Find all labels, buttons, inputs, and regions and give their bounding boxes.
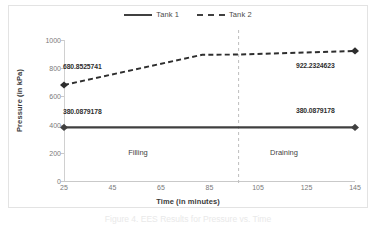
phase-label-filling: Filling (128, 148, 148, 157)
y-tick-label-600: 600 (31, 93, 61, 100)
x-axis-tick-labels: 25 45 65 85 105 125 145 (64, 184, 355, 196)
x-tick-label-85: 85 (206, 184, 214, 191)
figure-caption: Figure 4. EES Results for Pressure vs. T… (0, 214, 376, 224)
y-tick-label-400: 400 (31, 121, 61, 128)
x-tick-label-105: 105 (252, 184, 264, 191)
data-label-tank2-left: 680.8525741 (63, 63, 102, 70)
x-axis-line (64, 181, 355, 182)
y-tick-mark-0 (61, 181, 64, 182)
data-label-tank2-right: 922.2324623 (296, 62, 335, 69)
y-tick-label-0: 0 (31, 178, 61, 185)
x-tick-label-65: 65 (157, 184, 165, 191)
phase-label-draining: Draining (270, 148, 298, 157)
y-tick-label-1000: 1000 (31, 37, 61, 44)
y-tick-label-200: 200 (31, 149, 61, 156)
x-axis-title: Time (in minutes) (0, 197, 376, 206)
x-tick-label-145: 145 (349, 184, 361, 191)
data-label-tank1-right: 380.0879178 (296, 107, 335, 114)
x-tick-label-45: 45 (109, 184, 117, 191)
y-axis-tick-labels: 1000 800 600 400 200 0 (30, 40, 61, 181)
figure-container: Tank 1 Tank 2 Pressure (in kPa) Time (in… (0, 0, 376, 225)
x-tick-label-125: 125 (301, 184, 313, 191)
data-point-markers (60, 47, 359, 131)
data-label-tank1-left: 380.0879178 (63, 108, 102, 115)
x-tick-label-25: 25 (60, 184, 68, 191)
y-tick-label-800: 800 (31, 65, 61, 72)
y-axis-title: Pressure (in kPa) (15, 51, 24, 151)
